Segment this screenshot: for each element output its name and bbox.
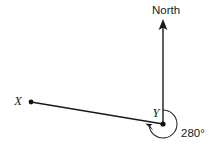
point-x-marker: [29, 100, 34, 105]
point-y-marker: [160, 121, 165, 126]
bearing-angle-label: 280°: [181, 127, 205, 139]
xy-segment: [31, 102, 163, 124]
bearing-diagram-svg: North X Y 280°: [0, 0, 216, 154]
point-x-label: X: [13, 94, 23, 108]
point-y-label: Y: [153, 106, 162, 120]
north-label: North: [152, 4, 180, 16]
bearing-diagram-canvas: North X Y 280°: [0, 0, 216, 154]
